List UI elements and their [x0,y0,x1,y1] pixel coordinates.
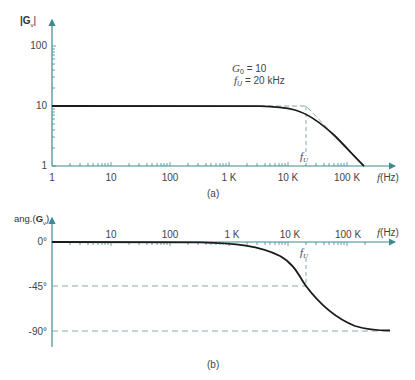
y-axis-label: ang.(Gv) [14,213,49,226]
y-tick-1: 1 [41,160,47,171]
magnitude-plot: 100 10 1 |Gv| 1 10 100 1 K 10 K 100 K ff… [20,15,399,199]
asymptote-dashed [52,106,364,166]
fu-label: fU [300,150,309,164]
y-axis-label: |Gv| [20,15,36,28]
x-tick-10: 10 [105,229,117,240]
annotation-g0: G0 = 10 [232,62,267,75]
x-tick-1: 1 [49,172,55,183]
x-tick-100: 100 [162,172,179,183]
caption-a: (a) [207,188,219,199]
y-tick-10: 10 [36,100,48,111]
x-axis-label: f(Hz) [377,226,399,238]
x-tick-10k: 10 K [280,229,301,240]
x-tick-10: 10 [105,172,117,183]
x-tick-100k: 100 K [335,229,361,240]
y-tick-minus45: -45° [29,281,47,292]
magnitude-curve [52,106,364,166]
x-tick-1k: 1 K [224,229,239,240]
x-tick-100: 100 [162,229,179,240]
x-tick-100k: 100 K [334,172,360,183]
annotation-fu: fU = 20 kHz [234,74,285,87]
bode-plot-figure: 100 10 1 |Gv| 1 10 100 1 K 10 K 100 K ff… [0,0,415,380]
fu-label: fU [300,246,309,260]
y-tick-minus90: -90° [29,326,47,337]
x-axis-label: ff(Hz)(Hz) [377,171,399,183]
caption-b: (b) [207,359,219,370]
y-tick-100: 100 [30,40,47,51]
y-tick-0: 0° [37,236,47,247]
x-tick-1k: 1 K [221,172,236,183]
phase-plot: ang.(Gv) 0° -45° -90° 10 100 1 K 10 K 10… [14,213,399,370]
x-tick-10k: 10 K [278,172,299,183]
